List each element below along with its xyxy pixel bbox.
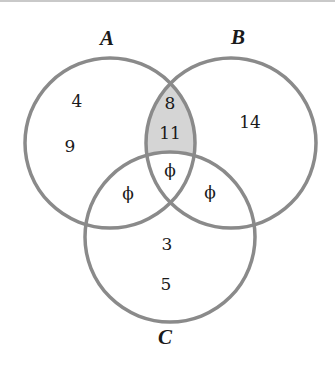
- region-a-only-value-1: 4: [72, 91, 83, 111]
- set-label-b: B: [230, 25, 245, 49]
- region-a-and-b-value-2: 11: [159, 123, 181, 143]
- region-a-b-c-empty: ϕ: [164, 160, 176, 180]
- region-a-and-c-empty: ϕ: [122, 183, 134, 203]
- region-a-only-value-2: 9: [65, 136, 76, 156]
- region-b-and-c-empty: ϕ: [204, 182, 216, 202]
- region-a-and-b-value-1: 8: [165, 93, 176, 113]
- region-c-only-value-1: 3: [162, 234, 173, 254]
- set-label-a: A: [98, 26, 114, 50]
- venn-diagram: A B C 4 9 14 8 11 ϕ ϕ ϕ 3 5: [0, 0, 335, 366]
- set-label-c: C: [158, 325, 173, 349]
- region-b-only-value-1: 14: [239, 112, 261, 132]
- region-c-only-value-2: 5: [161, 274, 172, 294]
